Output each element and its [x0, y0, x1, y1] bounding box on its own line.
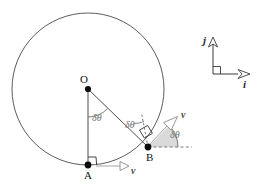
basis-axes [209, 37, 251, 79]
angle-label-at-B-velocity: δθ [170, 130, 180, 140]
point-label-B: B [146, 152, 153, 163]
figure-canvas: O A B δθ δθ δθ v v i j [0, 0, 269, 191]
point-label-O: O [80, 74, 88, 85]
basis-right-angle-marker [213, 67, 221, 75]
basis-label-j: j [203, 35, 206, 46]
velocity-label-at-B: v [181, 110, 185, 120]
velocity-label-at-A: v [131, 166, 135, 176]
point-label-A: A [84, 170, 92, 181]
angle-label-at-O: δθ [92, 113, 102, 123]
velocity-vector-at-A [96, 162, 129, 171]
basis-label-i: i [243, 79, 246, 90]
point-B-dot [145, 144, 152, 151]
point-O-dot [85, 86, 91, 92]
point-A-dot [85, 162, 92, 169]
circular-motion-diagram [0, 0, 269, 191]
angle-label-at-B-radius: δθ [125, 120, 135, 130]
angle-arc-at-B-radius [134, 122, 144, 124]
